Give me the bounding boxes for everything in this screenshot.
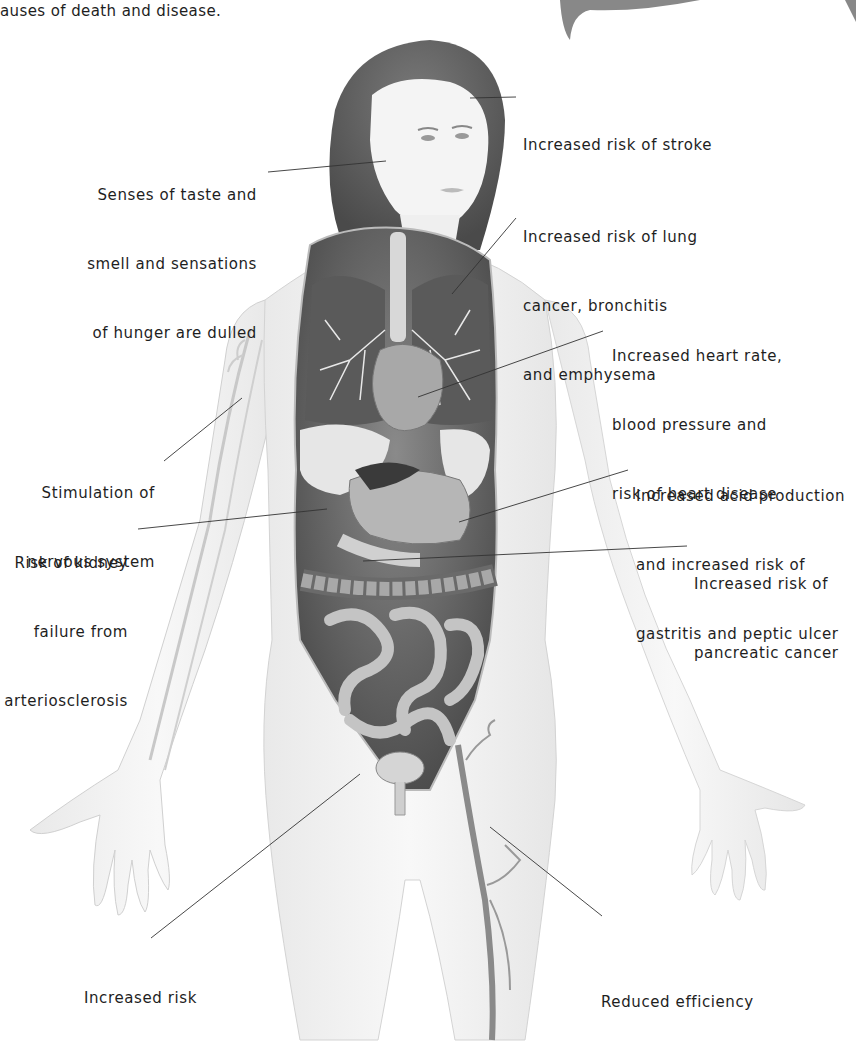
partial-illustration-fragment [560, 0, 856, 40]
head [329, 40, 505, 250]
label-taste: Senses of taste and smell and sensations… [87, 138, 257, 368]
label-circulation: Reduced efficiency of circulation and in… [601, 945, 754, 1055]
label-bladder: Increased risk of bladder and cervical c… [74, 941, 197, 1055]
right-lung [305, 276, 385, 425]
label-pancreas: Increased risk of pancreatic cancer [694, 527, 839, 688]
bladder [376, 752, 424, 784]
label-stroke: Increased risk of stroke [523, 88, 712, 180]
label-kidney: Risk of kidney failure from arterioscler… [4, 506, 128, 736]
trachea [390, 232, 406, 342]
